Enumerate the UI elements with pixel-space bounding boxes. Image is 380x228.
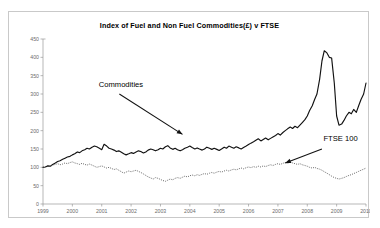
- y-tick-label: 300: [30, 91, 39, 97]
- x-tick-label: 2003: [155, 208, 167, 214]
- chart-title: Index of Fuel and Non Fuel Commodities(£…: [9, 21, 370, 30]
- chart-card: Index of Fuel and Non Fuel Commodities(£…: [8, 11, 369, 218]
- annotation-arrow-shaft: [119, 94, 182, 134]
- x-tick-label: 2008: [301, 208, 313, 214]
- y-tick-label: 350: [30, 73, 39, 79]
- x-tick-label: 2010: [360, 208, 370, 214]
- y-tick-label: 200: [30, 128, 39, 134]
- x-tick-label: 2005: [213, 208, 225, 214]
- y-tick-label: 0: [36, 201, 39, 207]
- data-series-group: [43, 51, 366, 182]
- y-tick-label: 450: [30, 36, 39, 42]
- y-tick-label: 400: [30, 54, 39, 60]
- x-tick-label: 2000: [67, 208, 79, 214]
- x-tick-label: 2007: [272, 208, 284, 214]
- annotation-arrow-head: [285, 159, 291, 163]
- chart-plot-area: 050100150200250300350400450 199920002001…: [9, 34, 370, 219]
- series-line-ftse-100: [43, 162, 366, 181]
- y-tick-label: 100: [30, 164, 39, 170]
- x-tick-label: 2009: [331, 208, 343, 214]
- x-tick-label: 2001: [96, 208, 108, 214]
- y-tick-label: 150: [30, 146, 39, 152]
- annotation-label: FTSE 100: [323, 134, 357, 143]
- y-tick-label: 50: [33, 183, 39, 189]
- y-tick-label: 250: [30, 109, 39, 115]
- y-axis: 050100150200250300350400450: [30, 36, 45, 207]
- x-tick-label: 2006: [243, 208, 255, 214]
- annotation-arrow-shaft: [285, 149, 322, 163]
- annotation-label: Commodities: [99, 80, 144, 89]
- x-tick-label: 2004: [184, 208, 196, 214]
- annotation-arrow-head: [177, 129, 183, 134]
- x-axis: 1999200020012002200320042005200620072008…: [37, 204, 370, 214]
- x-tick-label: 1999: [37, 208, 49, 214]
- x-tick-label: 2002: [125, 208, 137, 214]
- series-line-commodities: [43, 51, 366, 168]
